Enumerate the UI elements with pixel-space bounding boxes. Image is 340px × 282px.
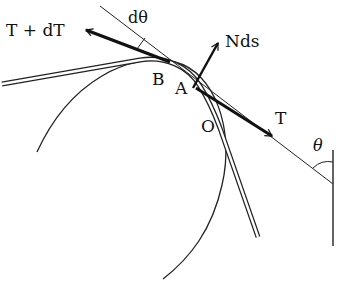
label-nds: Nds: [225, 33, 259, 50]
label-d-theta: dθ: [128, 10, 148, 26]
label-theta: θ: [313, 138, 323, 154]
d-theta-tick: [137, 38, 145, 49]
label-point-a: A: [175, 80, 187, 97]
strap: [2, 59, 258, 237]
curved-surface-arc: [37, 60, 226, 279]
diagram-canvas: [0, 0, 340, 282]
tangent-line: [100, 6, 333, 184]
theta-angle-arc: [313, 162, 333, 168]
label-point-o: O: [201, 118, 215, 135]
t-plus-dt-arrow: [86, 30, 170, 62]
label-tension: T: [275, 110, 286, 127]
label-point-b: B: [152, 71, 165, 88]
nds-arrow: [193, 43, 218, 88]
label-t-plus-dt: T + dT: [6, 22, 65, 39]
